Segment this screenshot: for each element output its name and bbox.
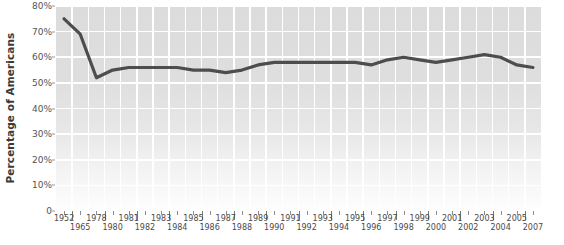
- y-tick-mark: [52, 134, 55, 135]
- x-tick-label: 1999: [410, 214, 430, 223]
- x-tick-label: 1987: [216, 214, 236, 223]
- x-tick-label: 2001: [442, 214, 462, 223]
- x-tick-label: 1993: [313, 214, 333, 223]
- y-axis-title: Percentage of Americans: [0, 0, 20, 215]
- y-tick-mark: [52, 6, 55, 7]
- x-tick-label: 2004: [490, 223, 510, 232]
- x-tick-label: 1985: [183, 214, 203, 223]
- x-tick-label: 1965: [70, 223, 90, 232]
- x-tick-label: 1981: [119, 214, 139, 223]
- x-tick-label: 2002: [458, 223, 478, 232]
- x-tick-label: 1986: [199, 223, 219, 232]
- x-tick-label: 1996: [361, 223, 381, 232]
- series-line-percentage-of-americans: [64, 19, 533, 78]
- y-tick-label: 70%: [32, 27, 52, 37]
- x-tick-label: 1980: [102, 223, 122, 232]
- x-tick-label: 1982: [135, 223, 155, 232]
- y-axis-tick-labels: 80%70%60%50%40%30%20%10%0: [20, 0, 56, 215]
- x-tick-label: 1989: [248, 214, 268, 223]
- x-tick-label: 1991: [280, 214, 300, 223]
- x-tick-label: 1992: [296, 223, 316, 232]
- y-tick-mark: [52, 57, 55, 58]
- x-tick-label: 1952: [54, 214, 74, 223]
- x-tick-label: 1998: [393, 223, 413, 232]
- plot-area: [56, 6, 541, 211]
- y-tick-label: 40%: [32, 104, 52, 114]
- y-tick-mark: [52, 211, 55, 212]
- x-tick-label: 2000: [426, 223, 446, 232]
- y-tick-label: 10%: [32, 180, 52, 190]
- x-tick-label: 2003: [474, 214, 494, 223]
- x-axis-tick-labels: 1952196519781980198119821983198419851986…: [56, 214, 541, 242]
- x-tick-label: 1997: [377, 214, 397, 223]
- y-tick-mark: [52, 185, 55, 186]
- y-tick-mark: [52, 31, 55, 32]
- series-line-layer: [56, 6, 541, 211]
- x-tick-label: 1995: [345, 214, 365, 223]
- y-tick-label: 50%: [32, 78, 52, 88]
- x-tick-label: 2007: [523, 223, 543, 232]
- y-tick-label: 30%: [32, 129, 52, 139]
- x-tick-label: 1988: [232, 223, 252, 232]
- x-tick-label: 2005: [507, 214, 527, 223]
- y-tick-label: 60%: [32, 52, 52, 62]
- line-chart: Percentage of Americans 80%70%60%50%40%3…: [0, 0, 564, 245]
- y-axis-title-text: Percentage of Americans: [4, 32, 16, 183]
- x-tick-label: 1978: [86, 214, 106, 223]
- y-tick-label: 20%: [32, 155, 52, 165]
- x-tick-label: 1994: [329, 223, 349, 232]
- x-tick-label: 1990: [264, 223, 284, 232]
- y-tick-mark: [52, 159, 55, 160]
- x-tick-label: 1983: [151, 214, 171, 223]
- y-tick-mark: [52, 82, 55, 83]
- x-tick-label: 1984: [167, 223, 187, 232]
- y-tick-label: 80%: [32, 1, 52, 11]
- y-tick-mark: [52, 108, 55, 109]
